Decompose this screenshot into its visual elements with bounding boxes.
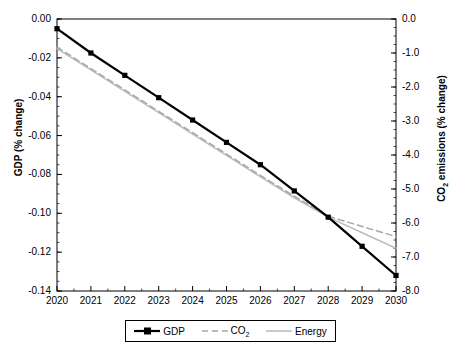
series-line-gdp	[57, 29, 396, 276]
series-marker-gdp	[292, 188, 297, 193]
series-marker-gdp	[190, 117, 195, 122]
legend-item-energy: Energy	[266, 326, 327, 337]
series-marker-gdp	[88, 50, 93, 55]
y-axis-left-tick-label: -0.12	[7, 246, 51, 257]
series-marker-gdp	[326, 215, 331, 220]
legend-label-gdp: GDP	[163, 326, 185, 337]
y-axis-right-tick-label: -5.0	[402, 183, 446, 194]
y-axis-left-tick-label: -0.10	[7, 207, 51, 218]
chart-legend: GDP CO2 Energy	[125, 320, 336, 342]
legend-item-gdp: GDP	[134, 326, 185, 337]
y-axis-left-tick-label: -0.04	[7, 91, 51, 102]
y-axis-left-tick-label: -0.02	[7, 52, 51, 63]
y-axis-left-tick-label: -0.08	[7, 168, 51, 179]
series-marker-gdp	[122, 73, 127, 78]
legend-swatch-energy	[266, 326, 292, 336]
y-axis-left-tick-label: 0.00	[7, 13, 51, 24]
series-marker-gdp	[258, 162, 263, 167]
y-axis-right-tick-label: 0.0	[402, 13, 446, 24]
legend-swatch-gdp	[134, 326, 160, 336]
series-marker-gdp	[393, 273, 398, 278]
legend-label-energy: Energy	[295, 326, 327, 337]
chart-figure: GDP (% change) CO2 emissions (% change) …	[0, 0, 458, 347]
y-axis-right-tick-label: -3.0	[402, 115, 446, 126]
legend-label-co2: CO2	[231, 325, 250, 338]
series-marker-gdp	[360, 244, 365, 249]
y-axis-right-tick-label: -6.0	[402, 217, 446, 228]
y-axis-left-tick-label: -0.06	[7, 130, 51, 141]
legend-item-co2: CO2	[202, 325, 250, 338]
series-marker-gdp	[156, 95, 161, 100]
y-axis-right-tick-label: -4.0	[402, 149, 446, 160]
series-marker-gdp	[224, 140, 229, 145]
y-axis-right-tick-label: -7.0	[402, 251, 446, 262]
legend-swatch-co2	[202, 326, 228, 336]
series-marker-gdp	[54, 26, 59, 31]
y-axis-right-tick-label: -2.0	[402, 81, 446, 92]
x-axis-tick-label: 2030	[376, 295, 416, 306]
y-axis-right-tick-label: -1.0	[402, 47, 446, 58]
